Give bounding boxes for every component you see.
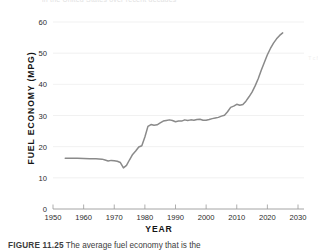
x-tick-label-2010: 2010 xyxy=(228,213,245,222)
figure-caption: FIGURE 11.25 The average fuel economy th… xyxy=(8,241,310,250)
y-axis-title: FUEL ECONOMY (MPG) xyxy=(26,28,36,188)
y-tick-label-60: 60 xyxy=(39,18,47,27)
x-tick-label-1990: 1990 xyxy=(167,213,184,222)
y-tick-label-50: 50 xyxy=(39,49,47,58)
x-axis-title: YEAR xyxy=(0,224,318,234)
x-axis-group xyxy=(53,205,298,210)
y-tick-label-40: 40 xyxy=(39,80,47,89)
y-tick-label-10: 10 xyxy=(39,174,47,183)
x-tick-label-1960: 1960 xyxy=(75,213,92,222)
chart-plot-area: 0102030405060 19501960197019801990200020… xyxy=(0,0,318,250)
y-tick-label-30: 30 xyxy=(39,112,47,121)
line-chart-svg: 0102030405060 19501960197019801990200020… xyxy=(0,0,318,250)
figure-container: in the United States over recent decades… xyxy=(0,0,318,250)
x-tick-label-2000: 2000 xyxy=(198,213,215,222)
y-tick-label-20: 20 xyxy=(39,143,47,152)
x-tick-label-1980: 1980 xyxy=(136,213,153,222)
x-tick-label-2020: 2020 xyxy=(259,213,276,222)
figure-caption-text: The average fuel economy that is the xyxy=(66,241,201,250)
gridlines-group xyxy=(53,22,304,209)
figure-caption-label: FIGURE 11.25 xyxy=(8,241,64,250)
y-tick-labels-group: 0102030405060 xyxy=(39,18,47,214)
x-tick-label-1970: 1970 xyxy=(106,213,123,222)
x-tick-labels-group: 195019601970198019902000201020202030 xyxy=(45,213,307,222)
x-tick-label-2030: 2030 xyxy=(290,213,307,222)
x-tick-label-1950: 1950 xyxy=(45,213,62,222)
